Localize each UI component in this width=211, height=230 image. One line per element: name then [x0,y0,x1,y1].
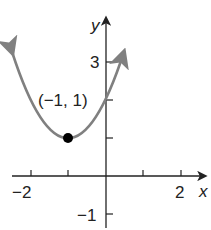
x-axis-label: x [198,182,208,201]
x-tick-label-2: 2 [175,183,184,202]
plot-area: y x 3 −1 −2 2 (−1, 1) [0,0,211,230]
y-tick-label-neg1: −1 [77,206,96,225]
x-tick-label-neg2: −2 [12,183,31,202]
vertex-point [63,133,73,143]
y-axis-label: y [90,16,101,35]
y-tick-label-3: 3 [90,53,99,72]
vertex-label: (−1, 1) [38,91,88,110]
graph: y x 3 −1 −2 2 (−1, 1) [0,0,211,230]
